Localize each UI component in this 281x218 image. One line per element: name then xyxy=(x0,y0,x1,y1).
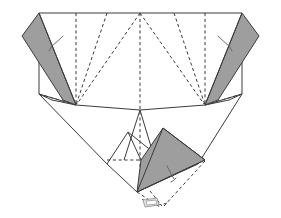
turn-over-glyph-inner xyxy=(146,200,157,205)
turn-over-glyph xyxy=(143,198,159,207)
origami-diagram-canvas xyxy=(0,0,281,218)
origami-diagram-root xyxy=(0,0,281,218)
